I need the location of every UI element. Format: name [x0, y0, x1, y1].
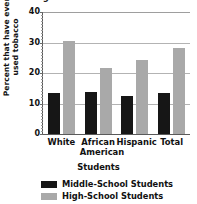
bar-chart-figure: Percentage of Students Who Have Ever Use…: [0, 0, 197, 204]
bar: [100, 68, 112, 134]
y-tick-label-20: 20: [29, 69, 40, 77]
x-tick-label-line1: African: [80, 137, 117, 147]
y-tick-mark-0: [40, 134, 43, 135]
legend-label: High-School Students: [62, 191, 163, 202]
x-axis-ticks: WhiteAfricanAmericanHispanicTotal: [43, 137, 190, 159]
y-axis-title: Percent that have ever used tobacco: [2, 0, 28, 102]
x-tick-label-line1: Hispanic: [117, 137, 154, 147]
y-tick-label-10: 10: [29, 100, 40, 108]
legend-swatch: [41, 181, 57, 188]
x-tick-label-line2: American: [80, 147, 117, 157]
legend-swatch: [41, 193, 57, 200]
bar-group: [80, 12, 117, 134]
x-tick-label: Total: [153, 137, 190, 147]
y-tick-label-0: 0: [34, 130, 40, 138]
x-tick-label: White: [43, 137, 80, 147]
legend-item: Middle-School Students: [0, 178, 197, 190]
x-tick-label-line1: White: [43, 137, 80, 147]
bar: [136, 60, 148, 134]
bar: [173, 48, 185, 134]
chart-title: Percentage of Students Who Have Ever Use…: [0, 0, 197, 2]
bar: [48, 93, 60, 134]
bar: [85, 92, 97, 134]
bar-group: [153, 12, 190, 134]
plot-area: 403020100: [43, 12, 190, 135]
bar-group: [43, 12, 80, 134]
x-axis-line: [42, 134, 190, 135]
legend-item: High-School Students: [0, 190, 197, 202]
y-tick-label-40: 40: [29, 8, 40, 16]
bar-group: [117, 12, 154, 134]
bar: [158, 93, 170, 134]
bar: [63, 41, 75, 134]
x-axis-title: Students: [0, 162, 197, 172]
x-tick-label-line1: Total: [153, 137, 190, 147]
chart-legend: Middle-School StudentsHigh-School Studen…: [0, 178, 197, 202]
x-tick-label: Hispanic: [117, 137, 154, 147]
y-tick-label-30: 30: [29, 39, 40, 47]
bar: [121, 96, 133, 134]
x-tick-label: AfricanAmerican: [80, 137, 117, 157]
legend-label: Middle-School Students: [62, 179, 173, 190]
chart-title-clipped: Percentage of Students Who Have Ever Use…: [0, 0, 197, 2]
